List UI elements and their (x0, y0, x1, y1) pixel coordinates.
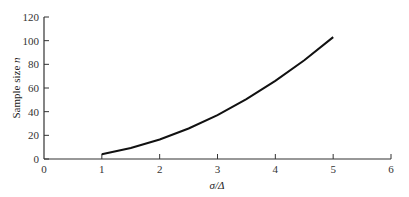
sample-size-chart: 0123456 020406080100120 σ/Δ Sample size … (0, 0, 409, 197)
y-axis-label: Sample size n (10, 57, 22, 119)
y-axis-ticks: 020406080100120 (23, 11, 50, 165)
y-tick-label: 60 (28, 82, 40, 94)
x-tick-label: 3 (215, 163, 221, 175)
y-tick-label: 20 (28, 129, 40, 141)
axes (44, 17, 391, 159)
x-tick-label: 1 (99, 163, 105, 175)
y-tick-label: 80 (28, 58, 40, 70)
x-tick-label: 4 (273, 163, 279, 175)
x-tick-label: 6 (388, 163, 394, 175)
x-axis-label: σ/Δ (210, 179, 225, 191)
data-line (102, 37, 333, 154)
x-tick-label: 5 (330, 163, 336, 175)
x-tick-label: 0 (41, 163, 47, 175)
y-tick-label: 100 (23, 35, 40, 47)
x-axis-ticks: 0123456 (41, 154, 394, 175)
y-tick-label: 40 (28, 106, 40, 118)
y-tick-label: 0 (34, 153, 40, 165)
x-tick-label: 2 (157, 163, 163, 175)
y-tick-label: 120 (23, 11, 40, 23)
